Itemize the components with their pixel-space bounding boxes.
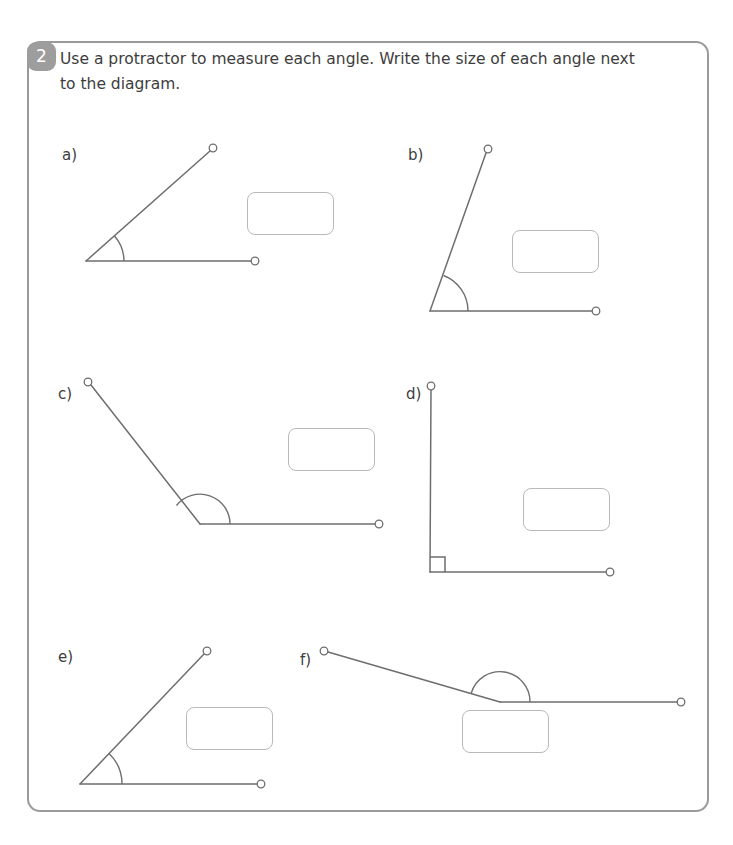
question-instruction-text: Use a protractor to measure each angle. …: [60, 47, 650, 97]
part-label-c: c): [58, 385, 72, 403]
exercise-frame: [27, 41, 709, 812]
answer-box-e[interactable]: [186, 707, 273, 750]
question-number-badge: 2: [27, 42, 56, 71]
part-label-e: e): [58, 648, 73, 666]
answer-box-a[interactable]: [247, 192, 334, 235]
part-label-b: b): [408, 146, 423, 164]
answer-box-d[interactable]: [523, 488, 610, 531]
part-label-d: d): [406, 385, 421, 403]
part-label-f: f): [300, 651, 311, 669]
answer-box-c[interactable]: [288, 428, 375, 471]
answer-box-b[interactable]: [512, 230, 599, 273]
part-label-a: a): [62, 146, 77, 164]
worksheet-page: 2 Use a protractor to measure each angle…: [0, 0, 733, 845]
answer-box-f[interactable]: [462, 710, 549, 753]
